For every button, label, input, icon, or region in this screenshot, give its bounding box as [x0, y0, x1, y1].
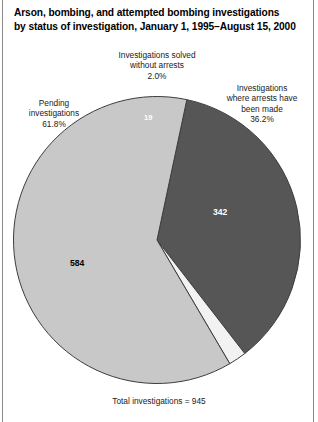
frame-border-left: [2, 0, 3, 422]
frame-border-right: [313, 0, 314, 422]
slice-value-pending: 584: [70, 258, 84, 268]
slice-value-solved: 19: [144, 113, 152, 122]
pie-chart: [13, 96, 301, 384]
chart-footnote: Total investigations = 945: [0, 396, 318, 406]
callout-arrests-line-1: Investigations: [237, 83, 288, 93]
pie-chart-svg: [13, 96, 301, 384]
callout-solved-line-2: without arrests: [130, 60, 184, 70]
chart-figure: Arson, bombing, and attempted bombing in…: [0, 0, 318, 422]
chart-title: Arson, bombing, and attempted bombing in…: [14, 6, 306, 33]
pie-slice-group: [13, 97, 300, 384]
callout-solved-percent: 2.0%: [92, 71, 222, 81]
callout-solved-without-arrests: Investigations solved without arrests 2.…: [92, 50, 222, 81]
chart-title-line-1: Arson, bombing, and attempted bombing in…: [14, 6, 306, 20]
callout-solved-line-1: Investigations solved: [118, 50, 195, 60]
chart-title-line-2: by status of investigation, January 1, 1…: [14, 20, 306, 34]
slice-value-arrests: 342: [213, 207, 227, 217]
